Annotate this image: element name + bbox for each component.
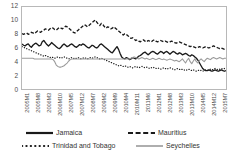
y-tick-label: 10 [11,17,18,23]
series-line-mauritius [22,20,226,49]
x-tick-label: 2007M5 [68,93,74,113]
chart-figure: 024681012 2005M12005M82006M32006M102007M… [0,0,234,153]
x-tick-label: 2008M7 [90,93,96,113]
legend-label-trinidad-and-tobago: Trinidad and Tobago [49,142,115,149]
legend-row-2: Trinidad and Tobago Seychelles [0,139,234,152]
legend-item-seychelles: Seychelles [136,139,200,152]
x-tick-label: 2009M2 [101,93,107,113]
x-tick-label: 2012M1 [156,93,162,113]
x-tick-label: 2011M6 [145,93,151,112]
x-tick-label: 2009M9 [112,93,118,113]
y-tick-label: 2 [14,73,18,79]
chart-legend: Jamaica Mauritius Trinidad and Tobago [0,126,234,153]
x-tick-label: 2012M8 [167,93,173,113]
y-tick-label: 6 [14,45,18,51]
x-tick-label: 2015M7 [222,93,228,113]
x-tick-label: 2010M4 [123,93,129,113]
y-tick-label: 4 [14,59,18,65]
y-axis: 024681012 [0,0,21,96]
x-tick-label: 2014M12 [211,93,217,116]
x-tick-label: 2006M3 [46,93,52,113]
x-tick-label: 2013M10 [189,93,195,116]
x-tick-label: 2013M3 [178,93,184,113]
legend-item-trinidad-and-tobago: Trinidad and Tobago [22,139,115,152]
series-line-jamaica [22,40,226,71]
y-tick-label: 8 [14,31,18,37]
y-tick-label: 0 [14,87,18,93]
legend-item-mauritius: Mauritius [128,126,186,139]
legend-item-jamaica: Jamaica [26,126,82,139]
legend-swatch-jamaica [26,129,53,137]
x-tick-label: 2007M12 [79,93,85,116]
x-tick-label: 2010M11 [134,93,140,115]
legend-swatch-trinidad-and-tobago [22,142,49,150]
y-tick-label: 12 [11,3,18,9]
x-tick-label: 2005M1 [24,93,30,113]
legend-label-jamaica: Jamaica [53,129,82,136]
x-axis: 2005M12005M82006M32006M102007M52007M1220… [21,91,227,129]
legend-label-mauritius: Mauritius [155,129,186,136]
x-tick-label: 2014M5 [200,93,206,113]
legend-swatch-seychelles [136,142,163,150]
x-tick-label: 2005M8 [35,93,41,113]
plot-area [21,6,227,90]
series-line-seychelles [22,57,226,67]
legend-label-seychelles: Seychelles [163,142,200,149]
x-tick-label: 2006M10 [57,93,63,116]
legend-row-1: Jamaica Mauritius [0,126,234,139]
series-canvas [22,7,226,89]
legend-swatch-mauritius [128,129,155,137]
